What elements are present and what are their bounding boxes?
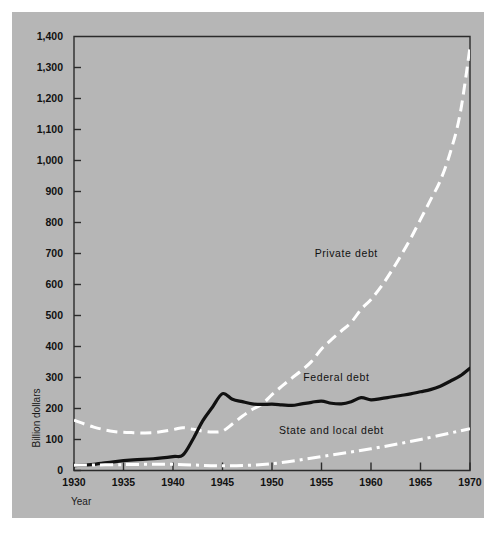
x-axis-tick-label: 1930 — [62, 476, 86, 488]
y-axis-tick-label: 300 — [45, 371, 63, 383]
series-label-state-and-local-debt: State and local debt — [279, 424, 384, 436]
x-axis-tick-label: 1945 — [211, 476, 235, 488]
y-axis-tick-label: 1,300 — [37, 61, 63, 73]
x-axis-tick-label: 1950 — [260, 476, 284, 488]
series-line-private-debt — [74, 47, 470, 433]
y-axis-title: Billion dollars — [31, 389, 42, 448]
y-axis-tick-label: 1,200 — [37, 92, 63, 104]
series-label-federal-debt: Federal debt — [303, 371, 369, 383]
x-axis-tick-label: 1955 — [310, 476, 334, 488]
y-axis-tick-label: 200 — [45, 402, 63, 414]
y-axis-tick-label: 900 — [45, 185, 63, 197]
x-axis-tick-label: 1935 — [112, 476, 136, 488]
x-axis-tick-label: 1965 — [409, 476, 433, 488]
chart-figure: 01002003004005006007008009001,0001,1001,… — [0, 0, 496, 541]
y-axis-tick-label: 0 — [57, 464, 63, 476]
series-line-federal-debt — [74, 368, 470, 465]
y-axis-tick-label: 800 — [45, 216, 63, 228]
debt-line-chart: 01002003004005006007008009001,0001,1001,… — [0, 0, 496, 541]
x-axis-tick-label: 1970 — [458, 476, 482, 488]
y-axis-tick-label: 600 — [45, 278, 63, 290]
x-axis-tick-label: 1960 — [359, 476, 383, 488]
y-axis-tick-label: 1,400 — [37, 30, 63, 42]
y-axis-tick-label: 100 — [45, 433, 63, 445]
y-axis-tick-label: 500 — [45, 309, 63, 321]
x-axis-tick-label: 1940 — [161, 476, 185, 488]
y-axis-tick-label: 1,100 — [37, 123, 63, 135]
y-axis-tick-label: 700 — [45, 247, 63, 259]
x-axis-title: Year — [71, 496, 92, 507]
series-label-private-debt: Private debt — [315, 247, 378, 259]
y-axis-tick-label: 400 — [45, 340, 63, 352]
y-axis-tick-label: 1,000 — [37, 154, 63, 166]
